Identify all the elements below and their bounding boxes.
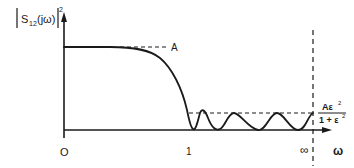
ripple-denominator-sup: 2 (342, 113, 346, 119)
transmission-response-diagram: S 12 (jω) 2 A O 1 ∞ ω Aε 2 1 + ε 2 (0, 0, 354, 168)
y-label-argument: (jω) (37, 13, 55, 25)
ripple-denominator: 1 + ε (319, 115, 339, 125)
y-label-superscript: 2 (59, 6, 63, 13)
y-label-s: S (21, 13, 28, 25)
response-curve (64, 47, 313, 130)
x-axis-label: ω (333, 144, 343, 158)
ripple-numerator-sup: 2 (338, 100, 342, 106)
tick-one-label: 1 (186, 146, 192, 157)
tick-infinity-label: ∞ (300, 143, 309, 157)
y-axis-arrow-icon (61, 12, 67, 22)
ripple-numerator: Aε (322, 102, 333, 112)
y-axis (61, 12, 67, 138)
y-axis-label: S 12 (jω) 2 (17, 6, 63, 28)
x-axis-arrow-icon (322, 127, 332, 133)
x-axis (64, 127, 332, 133)
ripple-level-label: Aε 2 1 + ε 2 (318, 100, 346, 125)
y-label-subscript: 12 (29, 20, 37, 27)
origin-label: O (60, 146, 69, 158)
level-a-label: A (171, 42, 178, 53)
